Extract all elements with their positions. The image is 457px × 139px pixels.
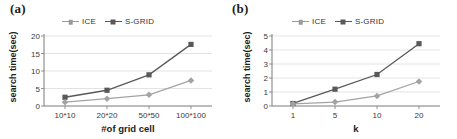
x-tick-b-2: 10 — [373, 111, 382, 120]
x-tick-b-3: 20 — [415, 111, 424, 120]
x-axis-label-b: k — [272, 123, 440, 134]
chart-panel-a: (a) ICE S-GRID search time(sec) 20 15 10… — [0, 0, 228, 139]
x-tick-b-1: 5 — [333, 111, 337, 120]
x-axis-label-a: #of grid cell — [44, 123, 212, 134]
chart-panel-b: (b) ICE S-GRID search time(sec) 5 4 3 2 … — [228, 0, 457, 139]
x-tick-a-1: 20*20 — [97, 111, 118, 120]
data-point-sgrid-a — [146, 72, 151, 77]
plot-area-a: search time(sec) 20 15 10 5 0 — [0, 0, 228, 139]
data-point-sgrid-a — [188, 42, 193, 47]
data-point-sgrid-b — [374, 72, 379, 77]
x-tick-a-0: 10*10 — [55, 111, 76, 120]
series-line-sgrid-b — [293, 44, 419, 104]
series-line-ice-b — [293, 82, 419, 104]
data-point-sgrid-b — [416, 41, 421, 46]
plot-area-b: search time(sec) 5 4 3 2 1 0 — [228, 0, 457, 139]
data-point-sgrid-a — [104, 88, 109, 93]
figure-container: (a) ICE S-GRID search time(sec) 20 15 10… — [0, 0, 457, 139]
series-line-ice-a — [65, 80, 191, 102]
data-point-sgrid-b — [332, 87, 337, 92]
x-tick-a-3: 100*100 — [176, 111, 206, 120]
x-tick-b-0: 1 — [291, 111, 295, 120]
x-tick-a-2: 50*50 — [139, 111, 160, 120]
